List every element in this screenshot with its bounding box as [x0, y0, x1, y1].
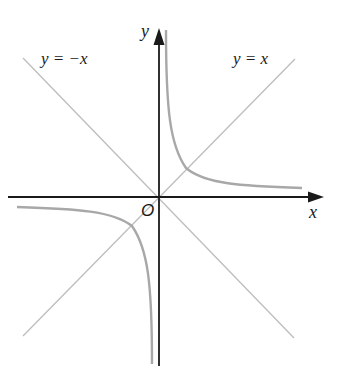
y-axis-arrow-icon: [154, 28, 165, 45]
x-axis-label: x: [309, 203, 317, 221]
origin-label: O: [141, 202, 154, 219]
label-y-equals-x: y = x: [233, 50, 268, 67]
y-axis-label: y: [141, 22, 149, 40]
x-axis-arrow-icon: [308, 192, 324, 203]
label-y-equals-neg-x: y = −x: [41, 50, 88, 67]
hyperbola-branch-q3: [17, 207, 152, 364]
hyperbola-diagram: y = −x y = x y x O: [0, 0, 338, 375]
